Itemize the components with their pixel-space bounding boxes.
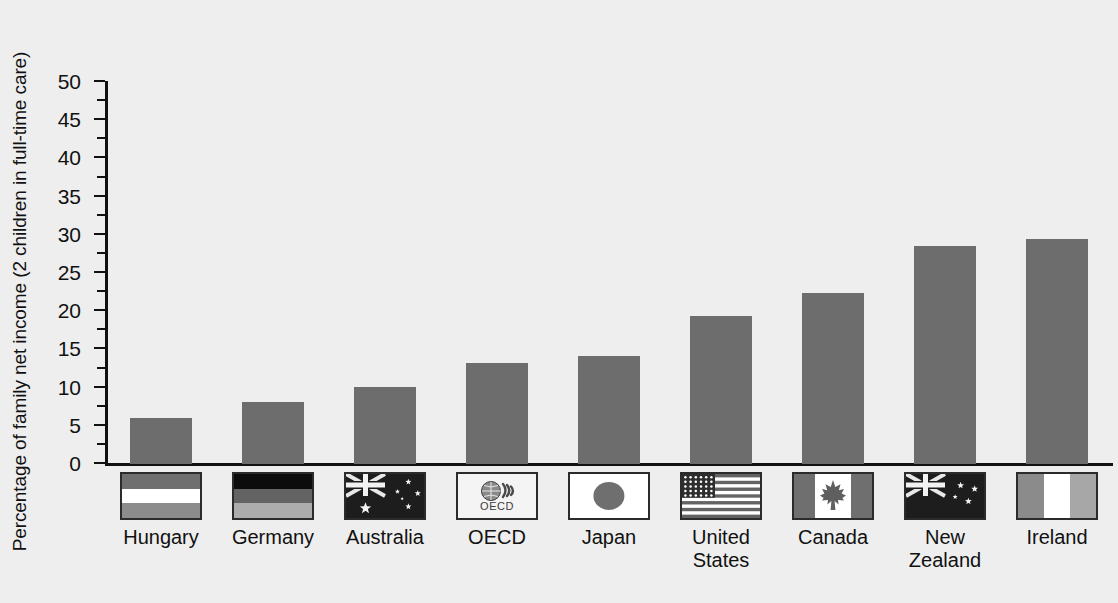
y-tick-10: [94, 386, 105, 388]
bar-series: [105, 82, 1113, 464]
flag-ireland-icon: [1016, 472, 1098, 520]
category-canada: Canada: [777, 472, 889, 549]
y-tick-minor: [97, 443, 105, 445]
y-tick-minor: [97, 328, 105, 330]
y-tick-15: [94, 347, 105, 349]
bar: [914, 246, 976, 464]
chart-figure: Percentage of family net income (2 child…: [0, 0, 1118, 603]
y-tick-25: [94, 271, 105, 273]
y-tick-minor: [97, 176, 105, 178]
flag-germany-icon: [232, 472, 314, 520]
svg-text:OECD: OECD: [480, 500, 514, 512]
category-label: New Zealand: [909, 526, 981, 572]
y-tick-label: 30: [41, 223, 81, 247]
flag-canada-icon: [792, 472, 874, 520]
category-ireland: Ireland: [1001, 472, 1113, 549]
y-axis-title: Percentage of family net income (2 child…: [0, 0, 40, 603]
y-tick-label: 0: [41, 452, 81, 476]
bar: [242, 402, 304, 464]
y-tick-label: 50: [41, 70, 81, 94]
flag-japan-icon: [568, 472, 650, 520]
y-tick-label: 20: [41, 299, 81, 323]
category-oecd: OECDOECD: [441, 472, 553, 549]
y-tick-label: 25: [41, 261, 81, 285]
y-tick-label: 10: [41, 376, 81, 400]
y-tick-label: 5: [41, 414, 81, 438]
y-tick-5: [94, 424, 105, 426]
y-tick-40: [94, 156, 105, 158]
category-germany: Germany: [217, 472, 329, 549]
flag-new-zealand-icon: [904, 472, 986, 520]
y-tick-50: [94, 80, 105, 82]
bar: [466, 363, 528, 464]
bar: [354, 387, 416, 464]
y-tick-label: 35: [41, 185, 81, 209]
category-label: Ireland: [1026, 526, 1087, 549]
category-new-zealand: New Zealand: [889, 472, 1001, 572]
bar: [690, 316, 752, 464]
category-label: Australia: [346, 526, 424, 549]
category-united-states: United States: [665, 472, 777, 572]
y-tick-35: [94, 195, 105, 197]
flag-united-states-icon: [680, 472, 762, 520]
category-label: OECD: [468, 526, 526, 549]
category-hungary: Hungary: [105, 472, 217, 549]
y-tick-45: [94, 118, 105, 120]
flag-australia-icon: [344, 472, 426, 520]
bar: [1026, 239, 1088, 464]
y-tick-30: [94, 233, 105, 235]
y-tick-label: 40: [41, 146, 81, 170]
bar: [578, 356, 640, 464]
flag-hungary-icon: [120, 472, 202, 520]
y-tick-label: 15: [41, 337, 81, 361]
category-label: United States: [692, 526, 750, 572]
category-japan: Japan: [553, 472, 665, 549]
category-label: Germany: [232, 526, 314, 549]
category-label: Canada: [798, 526, 868, 549]
oecd-logo-icon: OECD: [456, 472, 538, 520]
y-tick-minor: [97, 367, 105, 369]
y-tick-minor: [97, 405, 105, 407]
y-tick-0: [94, 462, 105, 464]
y-tick-minor: [97, 137, 105, 139]
y-tick-minor: [97, 99, 105, 101]
y-tick-20: [94, 309, 105, 311]
y-tick-minor: [97, 290, 105, 292]
bar: [802, 293, 864, 464]
y-tick-label: 45: [41, 108, 81, 132]
category-australia: Australia: [329, 472, 441, 549]
y-tick-minor: [97, 214, 105, 216]
y-tick-minor: [97, 252, 105, 254]
bar: [130, 418, 192, 464]
category-label: Japan: [582, 526, 637, 549]
category-axis: HungaryGermanyAustraliaOECDOECDJapanUnit…: [105, 472, 1113, 597]
category-label: Hungary: [123, 526, 199, 549]
plot-area: 05101520253035404550: [105, 82, 1105, 464]
